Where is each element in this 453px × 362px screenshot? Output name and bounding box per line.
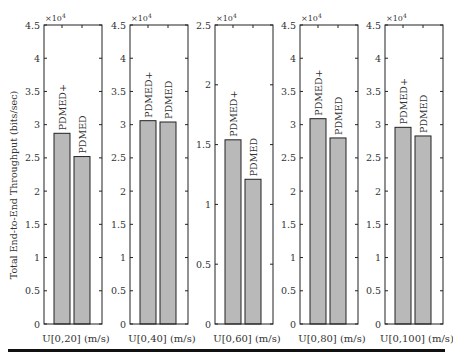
y-tick-label: 1 [375,252,381,263]
y-tick-label: 1.5 [366,219,381,230]
axes-frame [130,25,188,324]
y-exponent-label: ×104 [386,12,407,23]
y-tick-label: 3 [34,119,40,130]
axes-frame [385,25,443,324]
bar-label: PDMED+ [57,84,68,130]
y-tick-label: 0 [205,319,211,330]
axes-frame [300,25,358,324]
throughput-bar-chart-figure: Total End-to-End Throughput (bits/sec) P… [0,0,453,362]
x-axis-label: U[0,40] (m/s) [128,333,196,344]
bottom-divider-rule [8,349,445,352]
y-tick-label: 0 [375,319,381,330]
bar-pdmed [245,179,261,324]
panel-1: PDMED+PDMED00.511.522.533.544.5×104U[0,2… [25,12,110,344]
bar-label: PDMED+ [143,71,154,117]
y-tick-label: 4 [120,53,126,64]
y-tick-label: 2 [290,186,296,197]
y-tick-label: 2 [205,79,211,90]
x-axis-label: U[0,60] (m/s) [213,333,281,344]
y-tick-label: 2.5 [111,152,126,163]
y-tick-label: 3 [120,119,126,130]
y-tick-label: 2.5 [196,20,211,31]
y-tick-label: 1 [290,252,296,263]
y-tick-label: 0.5 [366,285,381,296]
y-tick-label: 4.5 [25,20,40,31]
y-tick-label: 2.5 [25,152,40,163]
panel-2: PDMED+PDMED00.511.522.533.544.5×104U[0,4… [111,12,196,344]
y-tick-label: 0 [120,319,126,330]
y-tick-label: 1.5 [196,139,211,150]
bar-label: PDMED [248,138,259,177]
y-axis-label: Total End-to-End Throughput (bits/sec) [8,91,19,279]
y-tick-label: 1.5 [281,219,296,230]
y-tick-label: 3 [375,119,381,130]
panel-5: PDMED+PDMED00.511.522.533.544.5×104U[0,1… [366,12,453,344]
bar-label: PDMED [418,94,429,133]
y-tick-label: 3.5 [111,86,126,97]
y-tick-label: 2.5 [281,152,296,163]
bar-pdmed-plus [310,119,326,324]
y-tick-label: 1.5 [25,219,40,230]
bar-pdmed [330,138,346,324]
y-tick-label: 2 [34,186,40,197]
axes-frame [44,25,102,324]
bar-pdmed-plus [140,121,156,324]
y-tick-label: 1 [205,199,211,210]
y-tick-label: 4 [34,53,40,64]
y-exponent-label: ×104 [131,12,152,23]
bar-label: PDMED [163,80,174,119]
bar-label: PDMED [333,96,344,135]
bar-pdmed-plus [395,127,411,324]
bar-pdmed-plus [225,140,241,324]
y-tick-label: 4.5 [111,20,126,31]
bar-pdmed [415,136,431,324]
bar-label: PDMED+ [228,91,239,137]
y-tick-label: 3 [290,119,296,130]
y-tick-label: 2 [375,186,381,197]
y-tick-label: 3.5 [366,86,381,97]
y-tick-label: 4.5 [281,20,296,31]
y-tick-label: 1 [120,252,126,263]
y-tick-label: 0 [290,319,296,330]
bar-label: PDMED+ [313,69,324,115]
y-tick-label: 4 [375,53,381,64]
panel-4: PDMED+PDMED00.511.522.533.544.5×104U[0,8… [281,12,366,344]
y-tick-label: 4.5 [366,20,381,31]
x-axis-label: U[0,100] (m/s) [380,333,453,344]
bar-pdmed [74,157,90,324]
y-tick-label: 0 [34,319,40,330]
y-tick-label: 0.5 [25,285,40,296]
y-tick-label: 3.5 [25,86,40,97]
panel-3: PDMED+PDMED00.511.522.5×104U[0,60] (m/s) [196,12,281,344]
y-tick-label: 1 [34,252,40,263]
y-exponent-label: ×104 [216,12,237,23]
y-tick-label: 0.5 [111,285,126,296]
y-exponent-label: ×104 [45,12,66,23]
x-axis-label: U[0,80] (m/s) [298,333,366,344]
bar-pdmed [160,122,176,324]
y-tick-label: 3.5 [281,86,296,97]
y-tick-label: 1.5 [111,219,126,230]
bar-label: PDMED+ [398,78,409,124]
y-tick-label: 0.5 [196,259,211,270]
y-tick-label: 2 [120,186,126,197]
bar-label: PDMED [77,115,88,154]
y-tick-label: 4 [290,53,296,64]
y-tick-label: 0.5 [281,285,296,296]
chart-panels: PDMED+PDMED00.511.522.533.544.5×104U[0,2… [25,12,453,344]
bar-pdmed-plus [54,133,70,324]
axes-frame [215,25,273,324]
y-exponent-label: ×104 [301,12,322,23]
x-axis-label: U[0,20] (m/s) [42,333,110,344]
y-tick-label: 2.5 [366,152,381,163]
